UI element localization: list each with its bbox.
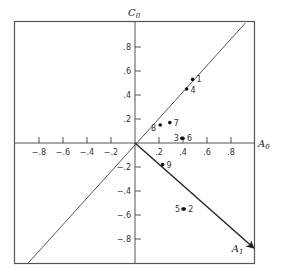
y-tick-label: −.8 xyxy=(117,235,131,244)
x-tick-label: −.6 xyxy=(56,148,70,157)
y-tick-label: .8 xyxy=(123,43,131,52)
point-label: 9 xyxy=(167,161,172,170)
point-label: 6 xyxy=(187,134,192,143)
x-axis-title: A0 xyxy=(257,138,270,151)
x-tick-label: .8 xyxy=(227,148,235,157)
y-tick-label: .4 xyxy=(123,91,131,100)
point-label: 7 xyxy=(174,119,179,128)
point-label: 3 xyxy=(174,134,179,143)
point-label: 1 xyxy=(197,75,202,84)
data-point-5 xyxy=(181,207,185,211)
y-tick-label: −.6 xyxy=(117,211,131,220)
point-label: 4 xyxy=(191,86,196,95)
data-point-8 xyxy=(158,123,162,127)
data-point-1 xyxy=(191,78,195,82)
point-label: 5 xyxy=(175,205,180,214)
data-point-9 xyxy=(161,163,165,167)
x-tick-label: −.2 xyxy=(104,148,118,157)
x-tick-label: .4 xyxy=(179,148,187,157)
vector-label: A1 xyxy=(231,243,244,256)
point-label: 2 xyxy=(188,205,193,214)
y-tick-label: −.4 xyxy=(117,187,131,196)
axes xyxy=(15,22,255,264)
x-tick-label: −.8 xyxy=(32,148,46,157)
x-tick-label: .6 xyxy=(203,148,211,157)
point-label: 8 xyxy=(151,124,156,133)
y-tick-label: −.2 xyxy=(117,163,131,172)
data-point-4 xyxy=(185,87,189,91)
data-point-7 xyxy=(168,121,172,125)
y-tick-label: .2 xyxy=(123,115,131,124)
data-points: 123456789 xyxy=(151,75,202,214)
x-tick-label: .2 xyxy=(155,148,163,157)
data-point-6 xyxy=(181,136,185,140)
x-tick-label: −.4 xyxy=(80,148,94,157)
factor-plot: −.8−.6−.4−.2.2.4.6.8.8.6.4.2−.2−.4−.6−.8… xyxy=(0,0,282,279)
y-axis-title: C0 xyxy=(128,7,141,20)
A1-vector xyxy=(135,143,254,248)
y-tick-label: .6 xyxy=(123,67,131,76)
